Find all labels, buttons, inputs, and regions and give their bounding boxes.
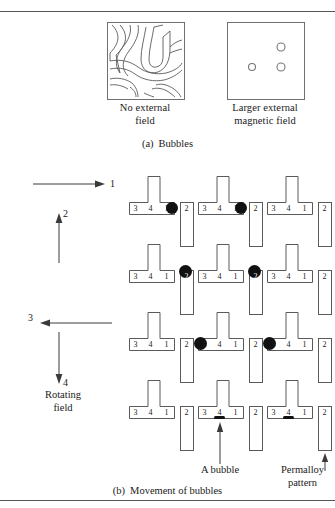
- i-bar-segment-label-2: 2: [182, 341, 191, 349]
- i-bar-segment-label-2: 2: [320, 409, 329, 417]
- i-bar-segment-label-2: 2: [251, 341, 260, 349]
- t-bar-segment-label-1: 1: [300, 205, 309, 213]
- magnetic-bubble: [166, 202, 178, 214]
- panel-no-external-field: [107, 22, 185, 100]
- a-bubble-annotation-label: A bubble: [170, 464, 270, 477]
- t-bar-segment-label-1: 1: [300, 341, 309, 349]
- i-bar-segment-label-2: 2: [320, 341, 329, 349]
- t-bar-segment-label-1: 1: [300, 273, 309, 281]
- serpentine-domain-pattern-icon: [108, 23, 184, 99]
- permalloy-label-line-1: Permalloy: [270, 464, 335, 477]
- t-bar-segment-label-4: 4: [215, 341, 224, 349]
- rotating-field-line-1: Rotating: [18, 389, 108, 402]
- t-bar-segment-label-3: 3: [200, 273, 209, 281]
- t-bar-segment-label-3: 3: [131, 409, 140, 417]
- t-bar-segment-label-1: 1: [231, 409, 240, 417]
- rotating-field-label: Rotating field: [18, 389, 108, 414]
- t-bar-segment-label-1: 1: [162, 273, 171, 281]
- i-bar-segment-label-2: 2: [320, 273, 329, 281]
- caption-line-1: No external: [92, 102, 198, 115]
- field-step-number-4: 4: [63, 377, 68, 388]
- t-bar-segment-label-3: 3: [200, 205, 209, 213]
- i-bar-segment-label-2: 2: [182, 205, 191, 213]
- t-bar-segment-label-3: 3: [200, 409, 209, 417]
- caption-line-1: Larger external: [212, 102, 318, 115]
- panel-larger-external-magnetic-field: [227, 22, 305, 100]
- i-bar-segment-label-2: 2: [182, 409, 191, 417]
- t-bar-segment-label-3: 3: [131, 341, 140, 349]
- t-bar-segment-label-3: 3: [269, 341, 278, 349]
- t-bar-segment-label-3: 3: [269, 273, 278, 281]
- t-bar-segment-label-4: 4: [146, 409, 155, 417]
- t-bar-segment-label-1: 1: [162, 409, 171, 417]
- field-arrow-step-2: [54, 213, 64, 263]
- caption-no-external-field: No external field: [92, 102, 198, 127]
- caption-line-2: magnetic field: [212, 115, 318, 128]
- i-bar-segment-label-2: 2: [182, 273, 191, 281]
- figure-part-a: No external field Larger external magnet…: [0, 18, 335, 146]
- magnetic-bubble: [283, 416, 294, 419]
- i-bar-segment-label-2: 2: [251, 273, 260, 281]
- t-bar-segment-label-1: 1: [231, 341, 240, 349]
- t-bar-segment-label-3: 3: [131, 205, 140, 213]
- t-bar-segment-label-3: 3: [269, 205, 278, 213]
- t-bar-segment-label-4: 4: [284, 205, 293, 213]
- figure-caption-a: (a)Bubbles: [0, 138, 335, 149]
- t-bar-segment-label-4: 4: [146, 205, 155, 213]
- circular-bubbles-icon: [228, 23, 304, 99]
- t-bar-segment-label-4: 4: [215, 205, 224, 213]
- figure-part-b: 1 2 3 4 Rotating field 3 4 1: [0, 160, 335, 508]
- t-bar-segment-label-4: 4: [284, 341, 293, 349]
- i-bar-segment-label-2: 2: [251, 409, 260, 417]
- t-bar-segment-label-1: 1: [162, 341, 171, 349]
- t-bar-segment-label-3: 3: [131, 273, 140, 281]
- rotating-field-line-2: field: [18, 402, 108, 415]
- figure-caption-b-title: Movement of bubbles: [130, 485, 222, 496]
- magnetic-bubble: [235, 202, 247, 214]
- t-bar-segment-label-4: 4: [146, 273, 155, 281]
- i-bar-segment-label-2: 2: [251, 205, 260, 213]
- magnetic-bubble: [214, 416, 225, 419]
- field-arrow-step-1: [33, 179, 105, 189]
- caption-line-2: field: [92, 115, 198, 128]
- figure-caption-b-label: (b): [113, 485, 125, 496]
- figure-caption-a-title: Bubbles: [159, 138, 193, 149]
- figure-caption-a-label: (a): [142, 138, 154, 149]
- i-bar-segment-label-2: 2: [320, 205, 329, 213]
- figure-caption-b: (b)Movement of bubbles: [0, 485, 335, 496]
- a-bubble-leader-arrow: [215, 422, 225, 464]
- t-bar-segment-label-3: 3: [269, 409, 278, 417]
- t-bar-segment-label-1: 1: [300, 409, 309, 417]
- t-bar-segment-label-1: 1: [231, 273, 240, 281]
- page-rule-top: [0, 11, 335, 12]
- field-step-number-1: 1: [110, 178, 115, 189]
- t-bar-segment-label-4: 4: [146, 341, 155, 349]
- t-bar-segment-label-4: 4: [215, 273, 224, 281]
- t-bar-segment-label-4: 4: [284, 273, 293, 281]
- field-step-number-2: 2: [63, 208, 68, 219]
- field-arrow-step-3: [40, 318, 112, 328]
- caption-larger-external-magnetic-field: Larger external magnetic field: [212, 102, 318, 127]
- field-step-number-3: 3: [28, 312, 33, 323]
- t-bar-segment-label-3: 3: [200, 341, 209, 349]
